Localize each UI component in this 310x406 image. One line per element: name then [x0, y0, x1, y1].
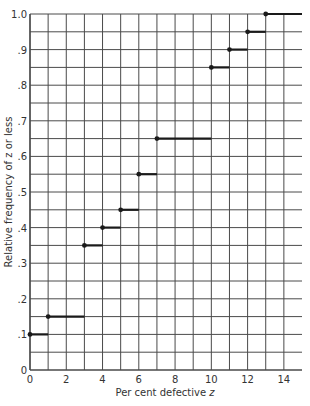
y-tick-label: .4	[17, 223, 27, 234]
y-tick-label: .9	[17, 45, 27, 56]
x-tick-label: 14	[277, 374, 290, 385]
y-tick-label: 1.0	[11, 9, 27, 20]
x-tick-label: 10	[205, 374, 218, 385]
y-axis-label: Relative frequency of z or less	[3, 117, 14, 268]
step-point	[209, 65, 214, 70]
x-axis-ticks: 02468101214	[27, 374, 290, 385]
x-tick-label: 0	[27, 374, 33, 385]
y-tick-label: .3	[17, 258, 27, 269]
step-point	[46, 314, 51, 319]
y-tick-label: .8	[17, 80, 27, 91]
step-point	[82, 243, 87, 248]
y-tick-label: .7	[17, 116, 27, 127]
y-tick-label: .1	[17, 329, 27, 340]
step-point	[263, 12, 268, 17]
step-point	[100, 225, 105, 230]
y-tick-label: .6	[17, 151, 27, 162]
step-point	[245, 29, 250, 34]
y-tick-label: .2	[17, 294, 27, 305]
cumulative-step-chart: 0.1.2.3.4.5.6.7.8.91.0 02468101214 Per c…	[0, 0, 310, 406]
step-point	[155, 136, 160, 141]
step-point	[118, 207, 123, 212]
x-tick-label: 6	[136, 374, 142, 385]
x-tick-label: 2	[63, 374, 69, 385]
x-axis-label: Per cent defective z	[115, 387, 215, 398]
step-point	[28, 332, 33, 337]
y-tick-label: .5	[17, 187, 27, 198]
x-tick-label: 12	[241, 374, 254, 385]
step-point	[227, 47, 232, 52]
step-point	[136, 172, 141, 177]
x-tick-label: 4	[99, 374, 105, 385]
x-tick-label: 8	[172, 374, 178, 385]
